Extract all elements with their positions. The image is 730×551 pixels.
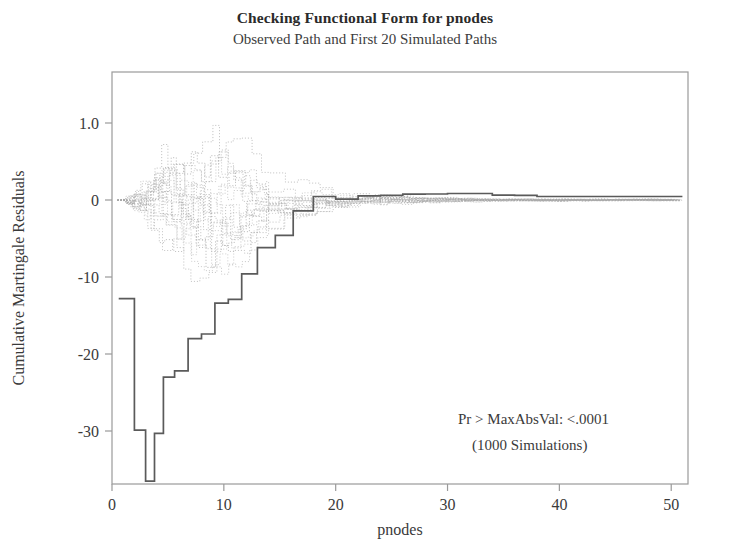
x-tick-label: 40 bbox=[551, 496, 567, 513]
x-axis-ticks: 01020304050 bbox=[108, 484, 679, 513]
x-tick-label: 0 bbox=[108, 496, 116, 513]
simulated-path-line bbox=[118, 125, 673, 204]
simulated-path-line bbox=[118, 196, 679, 282]
x-tick-label: 10 bbox=[216, 496, 232, 513]
chart-plot-area: 01020304050 1.00-10-20-30 pnodes Cumulat… bbox=[0, 0, 730, 551]
y-tick-label: 0 bbox=[91, 192, 99, 209]
y-axis-title: Cumulative Martingale Residuals bbox=[10, 170, 28, 385]
y-tick-label: -20 bbox=[78, 346, 99, 363]
simulated-paths-group bbox=[118, 125, 682, 281]
simulated-path-line bbox=[118, 167, 681, 222]
y-tick-label: -10 bbox=[78, 269, 99, 286]
x-tick-label: 20 bbox=[328, 496, 344, 513]
y-tick-label: -30 bbox=[78, 423, 99, 440]
y-axis-ticks: 1.00-10-20-30 bbox=[78, 115, 112, 440]
x-axis-title: pnodes bbox=[377, 521, 422, 539]
y-tick-label: 1.0 bbox=[79, 115, 99, 132]
x-tick-label: 50 bbox=[663, 496, 679, 513]
observed-path-line bbox=[119, 194, 683, 482]
simulated-path-line bbox=[118, 157, 681, 216]
simulated-path-line bbox=[118, 197, 679, 270]
simulated-path-line bbox=[118, 173, 676, 241]
x-tick-label: 30 bbox=[440, 496, 456, 513]
simulated-path-line bbox=[118, 182, 673, 255]
simulated-path-line bbox=[118, 165, 682, 252]
simulated-path-line bbox=[118, 173, 682, 248]
annotation-simulations: (1000 Simulations) bbox=[472, 437, 587, 454]
simulated-path-line bbox=[118, 150, 681, 228]
annotation-pvalue: Pr > MaxAbsVal: <.0001 bbox=[458, 411, 609, 427]
chart-root: Checking Functional Form for pnodes Obse… bbox=[0, 0, 730, 551]
